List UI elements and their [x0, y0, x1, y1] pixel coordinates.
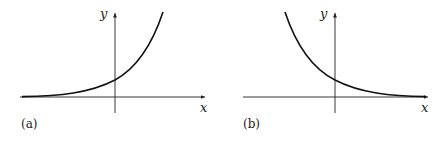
- x-axis-label: x: [200, 100, 208, 115]
- y-axis-label: y: [319, 6, 328, 21]
- growth-curve: [22, 12, 163, 97]
- exponential-graphs: y x (a) y x (b): [0, 0, 448, 141]
- panel-b: y x (b): [243, 6, 429, 131]
- decay-curve: [285, 12, 426, 97]
- panel-caption: (b): [243, 117, 260, 131]
- panel-caption: (a): [21, 117, 38, 131]
- panel-a: y x (a): [20, 6, 208, 131]
- y-axis-label: y: [99, 6, 108, 21]
- x-axis-label: x: [421, 100, 429, 115]
